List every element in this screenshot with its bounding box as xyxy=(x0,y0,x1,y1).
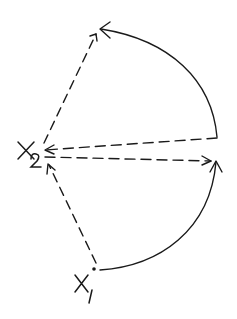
edge-x2-to-top xyxy=(44,34,97,143)
edge-right-to-x2 xyxy=(45,138,217,154)
diagram-canvas: X 2 X 1 xyxy=(0,0,237,319)
edge-right-arc-to-top xyxy=(100,22,217,137)
x1-point xyxy=(92,267,96,271)
arrowhead-icon xyxy=(47,164,55,174)
edge-x1-arc-to-right xyxy=(100,161,222,270)
x1-label xyxy=(75,275,92,303)
edge-x1-to-x2 xyxy=(47,164,96,263)
edge-x2-to-right xyxy=(45,156,211,165)
x2-label xyxy=(18,142,41,167)
